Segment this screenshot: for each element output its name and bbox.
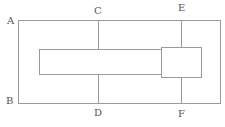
diagram-canvas: A B C D E F [0, 0, 225, 127]
label-a: A [6, 15, 15, 26]
small-inner-rectangle [162, 48, 202, 78]
label-c: C [94, 5, 102, 16]
long-inner-rectangle [40, 50, 162, 75]
label-d: D [94, 107, 102, 118]
label-e: E [178, 2, 185, 13]
label-f: F [178, 108, 185, 119]
label-b: B [6, 95, 13, 106]
